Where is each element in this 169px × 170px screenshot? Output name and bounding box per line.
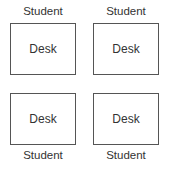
student-label-1: Student bbox=[3, 5, 83, 18]
desk-1: Desk bbox=[10, 23, 76, 75]
desk-3: Desk bbox=[10, 93, 76, 145]
student-label-3: Student bbox=[3, 149, 83, 162]
student-label-2: Student bbox=[86, 5, 166, 18]
desk-4: Desk bbox=[93, 93, 159, 145]
student-label-4: Student bbox=[86, 149, 166, 162]
desk-2: Desk bbox=[93, 23, 159, 75]
